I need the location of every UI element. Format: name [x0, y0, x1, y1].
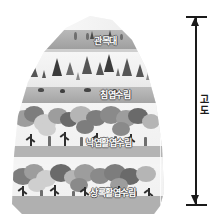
broadleaf-canopy	[112, 122, 130, 136]
shrub-plant	[74, 32, 77, 40]
axis-label-char-2: 도	[198, 105, 210, 116]
conifer-tree	[122, 58, 132, 76]
arrow-down-icon	[191, 195, 199, 204]
conifer-tree	[30, 64, 38, 77]
conifer-tree	[116, 68, 120, 76]
conifer-tree	[52, 58, 62, 76]
dome-edge-guide	[160, 26, 161, 206]
zone-gap-deciduous	[0, 157, 190, 164]
mountain-figure: 관목대 침엽수림	[8, 6, 180, 214]
conifer-understory	[84, 88, 91, 92]
broadleaf-canopy	[76, 120, 94, 134]
conifer-tree	[76, 72, 80, 80]
shrub-plant	[86, 33, 89, 40]
axis-line	[195, 16, 197, 206]
conifer-understory	[38, 88, 44, 92]
axis-label-char-1: 고	[198, 94, 210, 105]
conifer-tree	[96, 62, 104, 75]
zone-label-evergreen: 상록활엽수림	[90, 186, 136, 199]
conifer-tree	[146, 72, 150, 80]
zone-band-conifer	[0, 87, 190, 103]
conifer-understory	[60, 89, 65, 93]
vegetation-zonation-diagram: 관목대 침엽수림	[0, 0, 212, 222]
broadleaf-canopy	[28, 178, 46, 192]
axis-cap-bottom	[186, 204, 207, 206]
arrow-up-icon	[191, 17, 199, 26]
conifer-tree	[104, 54, 114, 72]
zone-field-conifer	[0, 52, 190, 87]
conifer-tree	[66, 62, 74, 75]
zone-label-shrub: 관목대	[94, 34, 117, 47]
broadleaf-canopy	[142, 114, 160, 129]
broadleaf-canopy	[38, 122, 56, 136]
conifer-tree	[42, 70, 46, 78]
zone-label-deciduous: 낙엽활엽수림	[86, 136, 132, 149]
shrub-plant	[120, 34, 123, 40]
broadleaf-canopy	[136, 166, 156, 182]
altitude-axis: 고 도	[186, 8, 212, 214]
axis-label-altitude: 고 도	[198, 94, 210, 116]
mountain-dome: 관목대 침엽수림	[8, 6, 180, 214]
zone-label-conifer: 침엽수림	[100, 88, 130, 101]
conifer-tree	[136, 64, 144, 77]
conifer-tree	[82, 56, 92, 74]
